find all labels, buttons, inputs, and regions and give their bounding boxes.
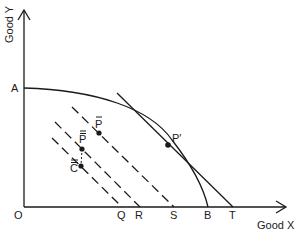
svg-text:P: P [79, 133, 86, 145]
production-frontier-curve [24, 88, 208, 207]
label-p-double-bar: P [79, 131, 86, 145]
point-p-bar [96, 130, 101, 135]
label-origin: O [14, 209, 23, 221]
label-b: B [204, 209, 211, 221]
dashed-line-q [52, 138, 122, 207]
label-p-bar: P [95, 117, 102, 130]
ppf-diagram: P P C P′ A O Q R S B T Good X Good Y [0, 0, 302, 235]
label-a: A [11, 82, 19, 94]
point-p-prime [165, 142, 171, 148]
y-axis-title: Good Y [3, 5, 15, 43]
label-t: T [229, 209, 236, 221]
label-q: Q [117, 209, 126, 221]
x-axis-title: Good X [257, 219, 295, 231]
svg-text:C: C [70, 162, 78, 174]
label-r: R [135, 209, 143, 221]
point-c-double-bar [78, 163, 83, 168]
label-c-double-bar: C [70, 160, 78, 174]
label-p-prime: P′ [172, 132, 181, 144]
tangent-line [117, 93, 233, 207]
point-p-double-bar [79, 146, 84, 151]
svg-text:P: P [95, 118, 102, 130]
label-s: S [170, 209, 177, 221]
dashed-line-s [72, 107, 174, 207]
